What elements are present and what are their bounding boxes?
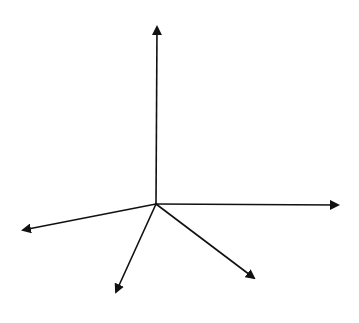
arrow-down-left [116, 204, 156, 292]
arrow-down-right [156, 204, 254, 278]
arrow-up [156, 27, 157, 204]
vector-diagram [0, 0, 359, 323]
origin-point [155, 203, 157, 205]
arrow-right [156, 204, 338, 205]
arrow-group [23, 27, 338, 292]
arrow-left [23, 204, 156, 230]
